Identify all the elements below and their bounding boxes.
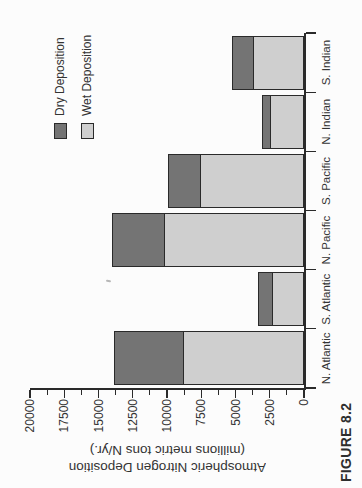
x-boundary-tick (306, 32, 316, 33)
y-minor-tick (184, 390, 185, 395)
y-minor-tick (47, 390, 48, 395)
y-tick-label: 5000 (228, 399, 244, 445)
y-tick-label: 7500 (193, 399, 209, 445)
y-minor-tick (149, 390, 150, 395)
category-label: S. Indian (320, 23, 333, 103)
y-axis-title-line2: (millions metric tons N/yr.) (30, 441, 304, 458)
y-tick-label: 10000 (159, 399, 175, 445)
x-boundary-tick (306, 92, 316, 93)
legend: Dry Deposition Wet Deposition (52, 35, 106, 139)
y-major-tick (29, 390, 30, 398)
dry-segment (233, 37, 254, 89)
y-major-tick (303, 390, 304, 398)
x-boundary-tick (306, 151, 316, 152)
y-axis-title-line1: Atmospheric Nitrogen Deposition (30, 458, 304, 475)
y-minor-tick (218, 390, 219, 395)
legend-item-wet-deposition: Wet Deposition (79, 35, 95, 139)
x-boundary-tick (306, 210, 316, 211)
y-minor-tick (252, 390, 253, 395)
y-axis-title: Atmospheric Nitrogen Deposition (million… (30, 441, 304, 475)
y-minor-tick (115, 390, 116, 395)
y-tick-label: 0 (296, 399, 312, 445)
dry-segment (113, 214, 165, 266)
chart-figure: 02500500075001000012500150001750020000N.… (0, 0, 362, 488)
bar-stack (232, 36, 304, 90)
dry-segment (169, 155, 201, 207)
y-major-tick (201, 390, 202, 398)
y-tick-label: 12500 (125, 399, 141, 445)
x-boundary-tick (306, 269, 316, 270)
y-major-tick (132, 390, 133, 398)
bar-stack (258, 272, 304, 326)
figure-scan: 02500500075001000012500150001750020000N.… (0, 0, 362, 488)
dry-segment (263, 96, 271, 148)
y-tick-label: 20000 (22, 399, 38, 445)
x-boundary-tick (306, 328, 316, 329)
y-major-tick (166, 390, 167, 398)
bar-stack (112, 213, 304, 267)
y-minor-tick (286, 390, 287, 395)
legend-label-wet: Wet Deposition (80, 35, 94, 116)
bar-stack (114, 331, 304, 385)
x-boundary-tick (306, 387, 316, 388)
y-minor-tick (81, 390, 82, 395)
y-major-tick (235, 390, 236, 398)
y-major-tick (64, 390, 65, 398)
dry-segment (259, 273, 273, 325)
y-tick-label: 2500 (262, 399, 278, 445)
y-tick-label: 17500 (56, 399, 72, 445)
y-major-tick (98, 390, 99, 398)
bar-stack (168, 154, 304, 208)
legend-swatch-wet (81, 123, 94, 139)
y-major-tick (269, 390, 270, 398)
dry-segment (115, 332, 183, 384)
y-tick-label: 15000 (91, 399, 107, 445)
y-axis-line (30, 388, 306, 390)
legend-label-dry: Dry Deposition (53, 37, 67, 116)
legend-item-dry-deposition: Dry Deposition (52, 35, 68, 139)
bar-stack (262, 95, 304, 149)
figure-caption: FIGURE 8.2 (338, 403, 354, 482)
legend-swatch-dry (54, 123, 67, 139)
